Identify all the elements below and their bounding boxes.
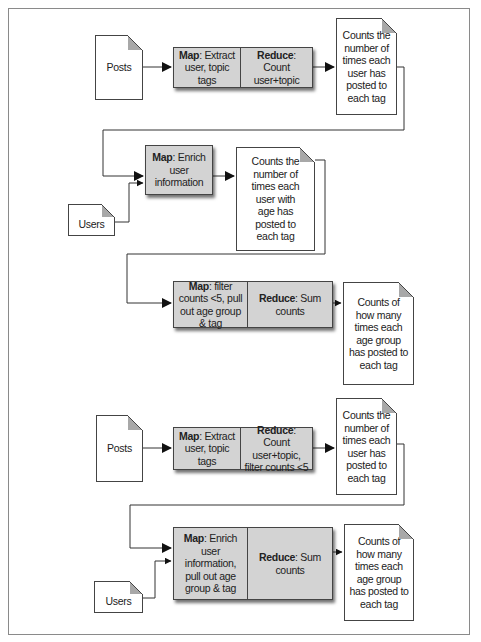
job2-map-step: Map: Enrich user information — [146, 146, 212, 194]
output1-label: Counts the number of times each user has… — [337, 409, 396, 484]
reduce-keyword: Reduce — [257, 424, 293, 436]
page-fold-icon — [399, 283, 413, 297]
page-fold-icon — [382, 399, 396, 413]
users-input-doc: Users — [68, 204, 115, 236]
page-fold-icon — [399, 525, 413, 539]
job3-map-step: Map: filter counts <5, pull out age grou… — [174, 282, 247, 327]
output2-doc: Counts the number of times each user wit… — [236, 147, 315, 251]
job2-reduce-step-b: Reduce: Sum counts — [247, 528, 332, 599]
job1-mapreduce-box: Map: Extract user, topic tags Reduce: Co… — [173, 47, 313, 88]
map-keyword: Map — [179, 430, 199, 442]
posts-input-doc: Posts — [95, 35, 143, 100]
job1-reduce-step: Reduce: Count user+topic — [240, 48, 312, 87]
page-fold-icon — [128, 36, 142, 50]
arrow-users-to-job2-b — [143, 561, 171, 598]
arrow-users-to-job2 — [115, 183, 143, 222]
output1-doc-b: Counts the number of times each user has… — [336, 398, 397, 495]
job1-map-step: Map: Extract user, topic tags — [174, 48, 240, 87]
posts-input-doc-b: Posts — [96, 415, 143, 482]
job1-mapreduce-box-b: Map: Extract user, topic tags Reduce: Co… — [173, 427, 313, 470]
users-input-doc-b: Users — [94, 581, 143, 613]
reduce-keyword: Reduce — [259, 292, 295, 304]
users-label: Users — [102, 595, 136, 608]
page-fold-icon — [130, 582, 142, 594]
reduce-keyword: Reduce — [259, 551, 295, 563]
output1-doc: Counts the number of times each user has… — [336, 18, 397, 115]
job3-mapreduce-box: Map: filter counts <5, pull out age grou… — [173, 281, 333, 328]
posts-label: Posts — [103, 442, 136, 455]
page-fold-icon — [300, 148, 314, 162]
job2-map-box: Map: Enrich user information — [145, 145, 213, 195]
job2-map-step-b: Map: Enrich user information, pull out a… — [174, 528, 247, 599]
page-fold-icon — [128, 416, 142, 430]
users-label: Users — [75, 218, 109, 231]
page-fold-icon — [102, 205, 114, 217]
map-keyword: Map — [152, 151, 172, 163]
output2-label: Counts of how many times each age group … — [345, 535, 413, 610]
output1-label: Counts the number of times each user has… — [337, 29, 396, 104]
job3-reduce-step: Reduce: Sum counts — [247, 282, 332, 327]
job1-map-step-b: Map: Extract user, topic tags — [174, 428, 240, 469]
output3-label: Counts of how many times each age group … — [344, 296, 413, 371]
posts-label: Posts — [103, 61, 136, 74]
output2-label: Counts the number of times each user wit… — [237, 155, 314, 243]
output3-doc: Counts of how many times each age group … — [343, 282, 414, 385]
map-keyword: Map — [184, 532, 204, 544]
reduce-keyword: Reduce — [257, 49, 293, 61]
map-keyword: Map — [189, 280, 209, 292]
job1-reduce-step-b: Reduce: Count user+topic, filter counts … — [240, 428, 312, 469]
map-keyword: Map — [179, 49, 199, 61]
job2-mapreduce-box-b: Map: Enrich user information, pull out a… — [173, 527, 333, 600]
output2-doc-b: Counts of how many times each age group … — [344, 524, 414, 621]
page-fold-icon — [382, 19, 396, 33]
